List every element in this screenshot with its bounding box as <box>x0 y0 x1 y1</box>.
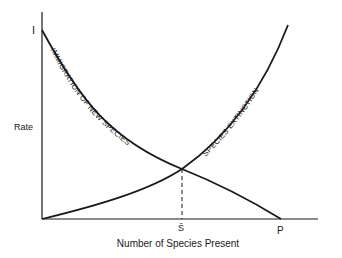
equilibrium-label: Ŝ <box>178 223 184 233</box>
x-axis-label: Number of Species Present <box>117 238 240 249</box>
immigration-curve <box>42 30 281 219</box>
island-biogeography-diagram: I Rate P Ŝ Number of Species Present IMM… <box>0 0 342 258</box>
extinction-curve-label: SPECIES EXTINCTION <box>201 86 261 158</box>
extinction-curve <box>42 25 288 219</box>
x-intercept-label: P <box>277 225 284 236</box>
immigration-curve-label: IMMIGRATION OF NEW SPECIES <box>49 47 132 148</box>
y-axis-label: Rate <box>14 122 33 132</box>
y-intercept-label: I <box>32 24 35 36</box>
